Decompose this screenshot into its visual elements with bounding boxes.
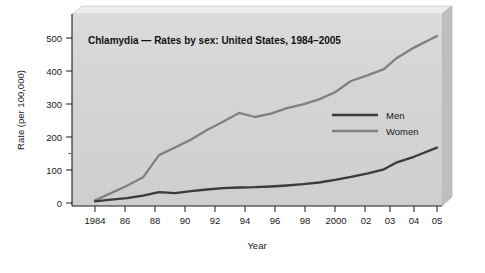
x-tick-label-1990: 90: [180, 215, 191, 226]
y-axis-title: Rate (per 100,000): [15, 70, 26, 150]
x-tick-label-2004: 04: [409, 215, 420, 226]
y-tick-label-0: 0: [57, 198, 62, 209]
x-axis-title: Year: [247, 240, 266, 251]
chart-figure: 0 100 200 300 400 500 Rate (per 100,000): [0, 0, 485, 273]
x-tick-label-1994: 94: [240, 215, 251, 226]
panel-top-bevel: [72, 6, 452, 14]
x-tick-label-2005: 05: [432, 215, 443, 226]
y-tick-label-500: 500: [46, 33, 62, 44]
x-tick-label-1984: 1984: [84, 215, 105, 226]
x-tick-label-2000: 2000: [325, 215, 346, 226]
x-tick-label-1992: 92: [210, 215, 221, 226]
y-tick-label-100: 100: [46, 165, 62, 176]
x-tick-label-1998: 98: [300, 215, 311, 226]
y-axis: 0 100 200 300 400 500 Rate (per 100,000): [15, 14, 72, 209]
x-tick-label-1996: 96: [270, 215, 281, 226]
x-tick-label-2002: 02: [361, 215, 372, 226]
chart-title: Chlamydia — Rates by sex: United States,…: [88, 35, 341, 46]
x-tick-label-1988: 88: [150, 215, 161, 226]
chlamydia-rates-line-chart: 0 100 200 300 400 500 Rate (per 100,000): [0, 0, 485, 273]
y-tick-label-300: 300: [46, 99, 62, 110]
y-tick-label-200: 200: [46, 132, 62, 143]
x-axis: 1984 86 88 90 92 94 96 98 2000 02 03 04 …: [72, 206, 442, 251]
x-tick-label-2003: 03: [385, 215, 396, 226]
panel-right-bevel: [442, 6, 452, 206]
legend-label-women: Women: [386, 126, 419, 137]
y-tick-label-400: 400: [46, 66, 62, 77]
x-tick-label-1986: 86: [120, 215, 131, 226]
legend-label-men: Men: [386, 110, 404, 121]
